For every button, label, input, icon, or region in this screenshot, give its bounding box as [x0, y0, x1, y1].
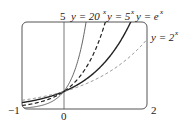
svg-text:x: x — [174, 29, 179, 37]
label-y-5x: y = 5 x — [106, 8, 135, 22]
svg-text:x: x — [130, 8, 135, 16]
svg-text:y = 5: y = 5 — [106, 10, 131, 22]
x-tick-label-min: −1 — [8, 104, 20, 116]
svg-text:y = 2: y = 2 — [150, 31, 175, 43]
y-tick-label-top: 5 — [60, 10, 66, 22]
x-tick-label-max: 2 — [151, 104, 157, 116]
x-tick-label-zero: 0 — [61, 110, 67, 121]
label-y-20x: y = 20 x — [70, 8, 107, 22]
svg-text:y = e: y = e — [135, 10, 159, 22]
label-y-ex: y = e x — [135, 8, 164, 22]
exponential-functions-chart: 5 −1 0 2 y = 20 x y = 5 x y = e x y = 2 … — [0, 0, 185, 121]
label-y-2x: y = 2 x — [150, 29, 179, 43]
svg-text:x: x — [159, 8, 164, 16]
plot-frame — [22, 22, 147, 109]
svg-text:y = 20: y = 20 — [70, 10, 100, 22]
